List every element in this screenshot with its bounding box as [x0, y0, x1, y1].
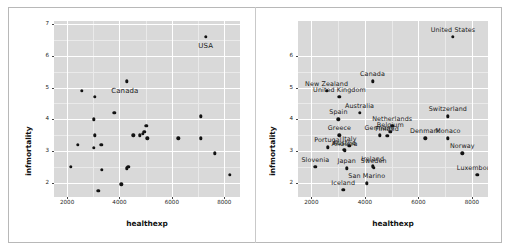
gridline-minor-vertical: [93, 21, 94, 197]
data-point: [138, 133, 141, 136]
x-tick-label: 8000: [465, 200, 479, 206]
x-tick-label: 4000: [112, 200, 126, 206]
point-label: Canada: [111, 87, 138, 94]
data-point: [365, 182, 368, 185]
data-point: [146, 137, 149, 140]
gridline-minor-horizontal: [54, 40, 240, 41]
data-point: [446, 137, 449, 140]
data-point: [92, 146, 95, 149]
point-label: Luxembourg: [457, 165, 488, 171]
x-tick-label: 6000: [165, 200, 179, 206]
data-point: [99, 143, 102, 146]
data-point: [177, 137, 180, 140]
y-tick-label: 5: [45, 85, 49, 91]
data-point: [76, 143, 79, 146]
data-point: [100, 168, 103, 171]
gridline-major-vertical: [172, 21, 173, 197]
data-point: [120, 183, 123, 186]
y-tick-label: 5: [289, 85, 293, 91]
gridline-major-horizontal: [54, 119, 240, 120]
data-point: [451, 35, 454, 38]
right-plot-area: United StatesCanadaNew ZealandUnited Kin…: [298, 21, 488, 197]
data-point: [314, 165, 317, 168]
gridline-minor-horizontal: [54, 103, 240, 104]
data-point: [345, 167, 348, 170]
gridline-major-vertical: [418, 21, 419, 197]
x-tick-label: 6000: [411, 200, 425, 206]
data-point: [338, 95, 341, 98]
point-label: Ireland: [361, 156, 384, 162]
data-point: [125, 80, 128, 83]
gridline-minor-vertical: [146, 21, 147, 197]
point-label: Spain: [329, 109, 347, 115]
data-point: [80, 89, 83, 92]
point-label: USA: [198, 43, 213, 50]
point-label: Switzerland: [429, 106, 467, 112]
gridline-major-horizontal: [298, 151, 488, 152]
x-tick-label: 2000: [60, 200, 74, 206]
data-point: [92, 118, 95, 121]
y-tick-mark: [296, 151, 298, 152]
gridline-major-horizontal: [298, 56, 488, 57]
left-scatter-panel: USACanada healthexp infmortality 2000400…: [8, 7, 256, 243]
data-point: [342, 188, 345, 191]
data-point: [228, 173, 231, 176]
gridline-major-vertical: [119, 21, 120, 197]
data-point: [461, 152, 464, 155]
gridline-major-horizontal: [54, 56, 240, 57]
point-label: Finland: [375, 126, 399, 132]
y-tick-label: 6: [45, 53, 49, 59]
y-tick-mark: [296, 119, 298, 120]
point-label: Iceland: [331, 180, 355, 186]
data-point: [326, 146, 329, 149]
y-tick-mark: [296, 183, 298, 184]
gridline-major-vertical: [224, 21, 225, 197]
data-point: [93, 95, 96, 98]
data-point: [97, 189, 100, 192]
gridline-major-horizontal: [298, 183, 488, 184]
right-x-axis-title: healthexp: [298, 219, 488, 228]
y-tick-mark: [52, 119, 54, 120]
right-y-axis-title: infmortality: [268, 126, 277, 175]
data-point: [145, 124, 148, 127]
gridline-major-horizontal: [54, 183, 240, 184]
left-y-axis-title: infmortality: [24, 126, 33, 175]
gridline-major-horizontal: [54, 24, 240, 25]
data-point: [337, 118, 340, 121]
data-point: [204, 35, 207, 38]
gridline-minor-horizontal: [54, 72, 240, 73]
data-point: [423, 137, 426, 140]
left-plot-area: USACanada: [54, 21, 240, 197]
y-tick-mark: [52, 183, 54, 184]
y-tick-label: 3: [289, 148, 293, 154]
left-x-axis-title: healthexp: [54, 219, 240, 228]
data-point: [199, 114, 202, 117]
figure-root: USACanada healthexp infmortality 2000400…: [0, 0, 512, 251]
y-tick-mark: [52, 151, 54, 152]
data-point: [343, 149, 346, 152]
data-point: [125, 167, 128, 170]
data-point: [113, 111, 116, 114]
x-tick-label: 8000: [217, 200, 231, 206]
point-label: Canada: [360, 71, 385, 77]
y-tick-label: 2: [289, 180, 293, 186]
y-tick-mark: [52, 88, 54, 89]
y-tick-label: 7: [45, 21, 49, 27]
point-label: Greece: [328, 125, 351, 131]
x-tick-label: 2000: [304, 200, 318, 206]
data-point: [378, 133, 381, 136]
y-tick-mark: [296, 56, 298, 57]
y-tick-label: 4: [45, 117, 49, 123]
data-point: [131, 133, 134, 136]
point-label: United Kingdom: [313, 87, 366, 93]
data-point: [69, 165, 72, 168]
data-point: [358, 111, 361, 114]
gridline-major-vertical: [311, 21, 312, 197]
point-label: Australia: [345, 103, 374, 109]
y-tick-label: 3: [45, 148, 49, 154]
gridline-minor-horizontal: [298, 72, 488, 73]
y-tick-label: 2: [45, 180, 49, 186]
point-label: Monaco: [435, 128, 460, 134]
gridline-minor-horizontal: [54, 167, 240, 168]
gridline-major-vertical: [67, 21, 68, 197]
